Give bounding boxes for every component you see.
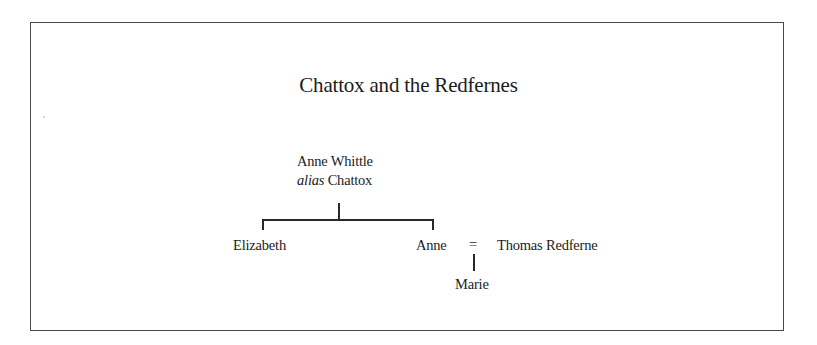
scan-speck: [43, 116, 45, 118]
node-anne: Anne: [416, 236, 447, 255]
alias-name: Chattox: [328, 172, 373, 188]
sibling-bar-line: [262, 219, 434, 221]
node-anne-whittle-alias: alias Chattox: [297, 171, 373, 190]
elizabeth-drop-line: [262, 219, 264, 230]
node-anne-whittle-name: Anne Whittle: [297, 152, 373, 171]
node-thomas-redferne: Thomas Redferne: [497, 236, 597, 255]
marriage-descent-line: [473, 254, 475, 271]
node-marie: Marie: [455, 275, 489, 294]
diagram-title: Chattox and the Redfernes: [0, 73, 817, 98]
diagram-frame: [30, 22, 784, 331]
anne-drop-line: [432, 219, 434, 230]
node-elizabeth: Elizabeth: [233, 236, 286, 255]
root-descent-line: [338, 203, 340, 219]
alias-prefix: alias: [297, 172, 324, 188]
marriage-symbol: =: [469, 235, 477, 254]
node-anne-whittle: Anne Whittle alias Chattox: [297, 152, 373, 190]
